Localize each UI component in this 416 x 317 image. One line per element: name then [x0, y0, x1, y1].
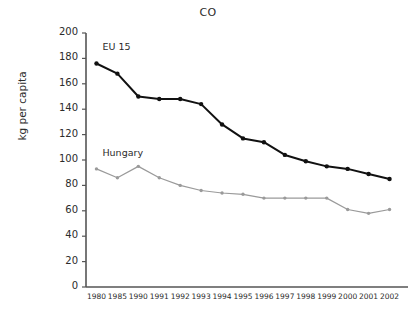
- data-point-marker: [262, 140, 266, 144]
- chart-figure: CO kg per capita 02040608010012014016018…: [0, 0, 416, 317]
- data-point-marker: [345, 167, 349, 171]
- data-point-marker: [283, 153, 287, 157]
- series-line: [96, 166, 389, 213]
- data-point-marker: [95, 167, 98, 170]
- data-point-marker: [241, 193, 244, 196]
- data-point-marker: [179, 184, 182, 187]
- series-label-eu-15: EU 15: [102, 41, 130, 52]
- data-point-marker: [115, 71, 119, 75]
- data-point-marker: [325, 164, 329, 168]
- plot-area: [0, 0, 416, 317]
- data-point-marker: [158, 176, 161, 179]
- data-point-marker: [325, 196, 328, 199]
- data-point-marker: [387, 177, 391, 181]
- data-point-marker: [94, 61, 98, 65]
- data-point-marker: [346, 208, 349, 211]
- series-label-hungary: Hungary: [102, 147, 143, 158]
- data-point-marker: [367, 212, 370, 215]
- data-point-marker: [388, 208, 391, 211]
- data-point-marker: [136, 94, 140, 98]
- data-point-marker: [220, 122, 224, 126]
- data-point-marker: [366, 172, 370, 176]
- data-point-marker: [283, 196, 286, 199]
- data-point-marker: [262, 196, 265, 199]
- data-point-marker: [157, 97, 161, 101]
- data-point-marker: [241, 136, 245, 140]
- data-point-marker: [137, 165, 140, 168]
- data-series-layer: [94, 61, 391, 215]
- data-point-marker: [178, 97, 182, 101]
- data-point-marker: [199, 189, 202, 192]
- data-point-marker: [304, 159, 308, 163]
- data-point-marker: [116, 176, 119, 179]
- series-line: [96, 63, 389, 179]
- data-point-marker: [220, 191, 223, 194]
- data-point-marker: [304, 196, 307, 199]
- data-point-marker: [199, 102, 203, 106]
